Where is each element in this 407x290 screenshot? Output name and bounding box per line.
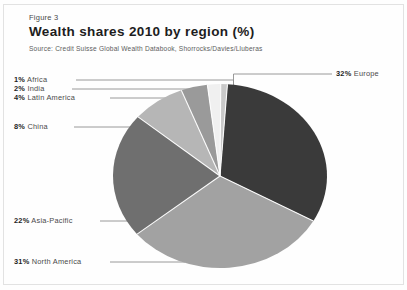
figure-3-panel: Figure 3 Wealth shares 2010 by region (%…	[0, 0, 407, 290]
pie-label-north-america-value: 31%	[14, 257, 29, 266]
pie-label-europe: 32% Europe	[336, 69, 379, 78]
pie-label-africa-value: 1%	[14, 75, 25, 84]
pie-label-africa: 1% Africa	[14, 75, 47, 84]
pie-label-india: 2% India	[14, 84, 45, 93]
pie-label-china-value: 8%	[14, 122, 25, 131]
pie-label-africa-name: Africa	[27, 75, 47, 84]
pie-label-india-value: 2%	[14, 84, 25, 93]
pie-label-north-america-name: North America	[32, 257, 82, 266]
pie-label-china: 8% China	[14, 122, 48, 131]
pie-label-europe-value: 32%	[336, 69, 351, 78]
pie-label-europe-name: Europe	[354, 69, 379, 78]
pie-label-latin-america-name: Latin America	[27, 93, 75, 102]
pie-label-asia-pacific-name: Asia-Pacific	[31, 216, 72, 225]
pie-label-china-name: China	[27, 122, 47, 131]
pie-chart	[0, 0, 407, 290]
pie-label-asia-pacific-value: 22%	[14, 216, 29, 225]
pie-label-latin-america-value: 4%	[14, 93, 25, 102]
pie-label-asia-pacific: 22% Asia-Pacific	[14, 216, 73, 225]
pie-label-latin-america: 4% Latin America	[14, 93, 75, 102]
pie-label-north-america: 31% North America	[14, 257, 81, 266]
pie-slices	[113, 84, 327, 268]
pie-label-india-name: India	[27, 84, 44, 93]
